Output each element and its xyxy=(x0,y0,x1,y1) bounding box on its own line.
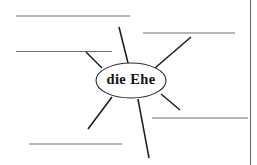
spoke-down-right xyxy=(161,94,180,110)
diagram-canvas: die Ehe xyxy=(0,0,257,165)
center-node: die Ehe xyxy=(96,63,166,98)
center-node-label: die Ehe xyxy=(106,71,155,87)
spoke-up-left xyxy=(119,27,128,63)
spoke-up-right xyxy=(155,37,191,68)
mind-map-worksheet: die Ehe xyxy=(0,0,257,165)
spoke-down xyxy=(138,99,149,158)
spoke-left-up xyxy=(86,52,102,68)
spoke-down-left xyxy=(88,97,112,129)
